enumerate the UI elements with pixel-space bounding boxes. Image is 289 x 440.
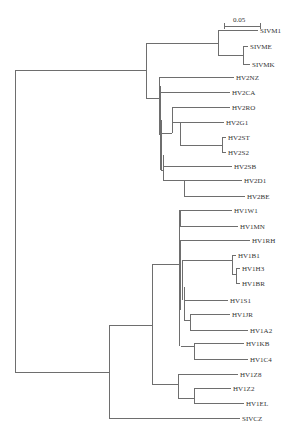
leaf-label: HV1JR	[232, 311, 253, 319]
leaf-label: HV2ST	[228, 134, 251, 142]
leaf-label: HV1MN	[240, 223, 265, 231]
leaf-label: HV2S2	[228, 149, 250, 157]
leaf-label: HV1RH	[252, 237, 275, 245]
leaf-label: HV1W1	[234, 207, 258, 215]
leaf-label: HV1EL	[246, 400, 268, 408]
leaf-label: HV1Z8	[240, 371, 262, 379]
leaf-label: HV1BR	[242, 280, 265, 288]
leaf-label: HV1C4	[250, 356, 272, 364]
scale-bar-label: 0.05	[233, 16, 246, 24]
leaf-label: HV1KB	[246, 340, 270, 348]
leaf-label: SIVME	[250, 43, 272, 51]
tree-branches	[15, 30, 258, 418]
leaf-label: HV2G1	[226, 119, 249, 127]
leaf-label: SIVMK	[252, 61, 275, 69]
leaf-label: HV1S1	[230, 297, 252, 305]
leaf-label: HV1B1	[238, 252, 260, 260]
scale-bar: 0.05	[224, 16, 260, 29]
leaf-label: SIVM1	[260, 27, 282, 35]
leaf-label: HV1H3	[242, 265, 265, 273]
leaf-label: HV2NZ	[236, 74, 259, 82]
leaf-label: SIVCZ	[242, 415, 262, 423]
phylogenetic-tree: 0.05	[0, 0, 289, 440]
leaf-label: HV2BE	[247, 193, 270, 201]
leaf-label: HV2CA	[232, 89, 255, 97]
leaf-labels: SIVM1 SIVME SIVMK HV2NZ HV2CA HV2RO HV2G…	[226, 27, 282, 423]
leaf-label: HV1Z2	[233, 385, 255, 393]
leaf-label: HV2D1	[244, 177, 267, 185]
leaf-label: HV1A2	[250, 327, 273, 335]
leaf-label: HV2SB	[234, 163, 257, 171]
leaf-label: HV2RO	[232, 104, 255, 112]
